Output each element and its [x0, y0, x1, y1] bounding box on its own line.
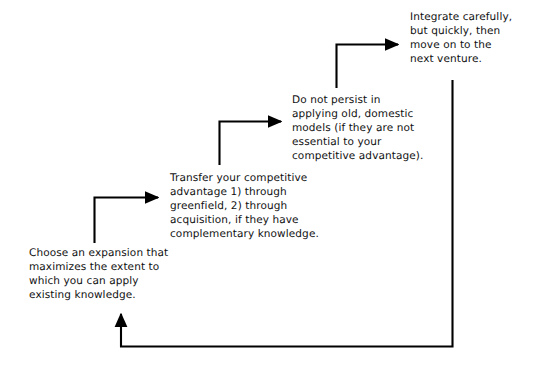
step-3-text: Do not persist in applying old, domestic… — [292, 93, 457, 163]
step-4-text: Integrate carefully, but quickly, then m… — [410, 10, 542, 66]
connector-2-to-3 — [220, 122, 282, 166]
diagram-canvas: Choose an expansion that maximizes the e… — [0, 0, 542, 368]
step-2-text: Transfer your competitive advantage 1) t… — [170, 171, 350, 241]
connector-1-to-2 — [95, 198, 159, 244]
step-1-text: Choose an expansion that maximizes the e… — [29, 246, 204, 302]
connector-3-to-4 — [337, 45, 399, 89]
